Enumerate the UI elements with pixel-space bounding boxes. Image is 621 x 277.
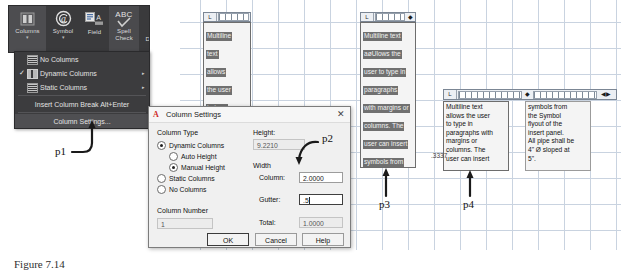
total-label: Total:	[259, 219, 276, 226]
mtext-body-p1[interactable]: Multiline text allows the user to type i…	[203, 22, 251, 112]
mtext-line: Multiline	[206, 24, 248, 42]
help-button[interactable]: Help	[302, 233, 344, 246]
menu-item-no-columns-label: No Columns	[40, 56, 149, 63]
callout-label-p2: p2	[322, 132, 333, 144]
check-icon: ✓	[19, 69, 27, 77]
mtext-ruler-p3[interactable]: L ◆	[360, 12, 416, 22]
dialog-title-label: Column Settings	[166, 110, 221, 119]
mtext-line: 5".	[528, 155, 588, 164]
figure-caption: Figure 7.14	[14, 258, 65, 270]
column-width-field[interactable]: 2.0000	[299, 172, 343, 183]
columns-icon	[20, 9, 35, 28]
radio-label-dynamic-columns: Dynamic Columns	[169, 142, 224, 149]
ruler-corner-icon-p1[interactable]: L	[204, 13, 217, 21]
ribbon-button-spell-label-1: Spell	[117, 28, 131, 35]
radio-no-columns[interactable]: No Columns	[157, 184, 253, 195]
mtext-line: text	[206, 42, 248, 60]
ruler-track-p1[interactable]	[218, 13, 249, 21]
ruler-grip-right-p4[interactable]: ◀▶	[598, 90, 614, 99]
submenu-arrow-icon-dynamic[interactable]: ▸	[142, 70, 145, 76]
total-field: 1.0000	[299, 217, 343, 228]
submenu-arrow-icon-static[interactable]: ▸	[142, 84, 145, 90]
mtext-body-p4-column-1[interactable]: Multiline text allows the user to type i…	[443, 101, 509, 171]
menu-item-dynamic-columns-label: Dynamic Columns	[40, 70, 149, 77]
callout-label-p1: p1	[55, 145, 66, 157]
menu-item-insert-column-break-label: Insert Column Break Alt+Enter	[35, 101, 129, 108]
mtext-line: Multiline text	[446, 103, 506, 112]
ribbon-button-dictionary[interactable]: Dic	[139, 6, 150, 52]
field-icon: A	[85, 10, 104, 29]
menu-item-insert-column-break[interactable]: Insert Column Break Alt+Enter	[15, 97, 149, 111]
ruler-grip-right-p3[interactable]: ◆	[406, 13, 415, 22]
menu-item-static-columns[interactable]: Static Columns ▸	[15, 80, 149, 94]
mtext-line: user can insert	[446, 155, 506, 164]
radio-static-columns[interactable]: Static Columns	[157, 173, 253, 184]
ribbon-button-spell-check[interactable]: ABC Spell Check	[109, 6, 139, 52]
ribbon-button-columns[interactable]: Columns ▾	[9, 6, 46, 52]
mtext-line: with margins or	[363, 96, 413, 114]
callout-label-p3: p3	[379, 198, 390, 210]
ruler-track-p4-column-2[interactable]	[533, 91, 597, 99]
mtext-line: 4" Ø sloped at	[528, 146, 588, 155]
gutter-field[interactable]: .5	[299, 194, 343, 205]
radio-dot-dynamic-columns	[157, 141, 166, 150]
svg-text:ABC: ABC	[115, 10, 132, 19]
radio-dot-auto-height	[169, 152, 178, 161]
menu-item-column-settings[interactable]: Column Settings...	[15, 114, 149, 128]
mtext-editor-p3: L ◆ Multiline text aøUlows the user to t…	[360, 12, 416, 168]
coordinate-readout: .3337	[431, 152, 447, 159]
cancel-button[interactable]: Cancel	[255, 233, 297, 246]
radio-dynamic-columns[interactable]: Dynamic Columns	[157, 140, 253, 151]
mtext-ruler-p4[interactable]: L ◆ ◀▶	[443, 89, 617, 100]
ruler-track-p4-column-1[interactable]	[458, 91, 522, 99]
no-columns-icon	[27, 55, 37, 63]
gutter-label: Gutter:	[259, 196, 280, 203]
chevron-down-icon[interactable]: ▾	[26, 35, 29, 39]
mtext-line: flyout of the	[528, 120, 588, 129]
radio-dot-no-columns	[157, 185, 166, 194]
abc-check-icon: ABC	[113, 8, 135, 28]
height-label: Height:	[253, 129, 275, 136]
mtext-line: Multiline text	[363, 24, 413, 42]
columns-dropdown-menu: No Columns ✓ Dynamic Columns ▸ Static Co…	[14, 51, 150, 129]
ribbon-button-spell-label-2: Check	[115, 35, 133, 42]
mtext-line: the Symbol	[528, 112, 588, 121]
mtext-line: aøUlows the	[363, 42, 413, 60]
mtext-line: allows the user	[446, 112, 506, 121]
menu-item-no-columns[interactable]: No Columns	[15, 52, 149, 66]
svg-text:A: A	[96, 14, 101, 21]
dialog-title-bar[interactable]: A Column Settings ✕	[149, 107, 350, 123]
radio-manual-height[interactable]: Manual Height	[157, 162, 253, 173]
ruler-track-p3[interactable]	[375, 13, 405, 21]
width-group-label: Width	[253, 162, 271, 169]
radio-label-manual-height: Manual Height	[181, 164, 225, 171]
ok-button[interactable]: OK	[207, 233, 249, 246]
ruler-corner-icon-p3[interactable]: L	[361, 13, 374, 21]
ruler-corner-icon-p4[interactable]: L	[444, 90, 457, 99]
ruler-grip-gutter-p4[interactable]: ◆	[523, 90, 532, 99]
mtext-editor-p1: L Multiline text allows the user to type…	[203, 12, 251, 112]
chevron-down-icon-symbol[interactable]: ▾	[62, 35, 65, 39]
mtext-body-p3[interactable]: Multiline text aøUlows the user to type …	[360, 22, 416, 168]
mtext-ruler-p1[interactable]: L	[203, 12, 251, 22]
mtext-line: to type in	[446, 120, 506, 129]
at-symbol-icon: a	[55, 9, 72, 28]
radio-auto-height[interactable]: Auto Height	[157, 151, 253, 162]
ribbon-button-symbol[interactable]: a Symbol ▾	[46, 6, 80, 52]
menu-separator-2	[18, 112, 146, 113]
static-columns-icon	[27, 83, 37, 91]
mtext-line: margins or	[446, 137, 506, 146]
column-number-label: Column Number	[157, 207, 208, 214]
callout-label-p4: p4	[463, 198, 474, 210]
height-field: 9.2210	[253, 139, 305, 150]
column-number-field[interactable]: 1	[157, 218, 213, 229]
dialog-body: Column Type Dynamic Columns Auto Height …	[149, 123, 350, 247]
mtext-body-p4-column-2[interactable]: symbols from the Symbol flyout of the in…	[525, 101, 591, 171]
ribbon-button-field[interactable]: A Field	[80, 6, 109, 52]
mtext-line: user to type in	[363, 60, 413, 78]
close-icon[interactable]: ✕	[335, 109, 347, 120]
menu-item-dynamic-columns[interactable]: ✓ Dynamic Columns ▸	[15, 66, 149, 80]
radio-label-auto-height: Auto Height	[181, 153, 217, 160]
radio-label-static-columns: Static Columns	[169, 175, 215, 182]
column-width-label: Column:	[259, 174, 285, 181]
